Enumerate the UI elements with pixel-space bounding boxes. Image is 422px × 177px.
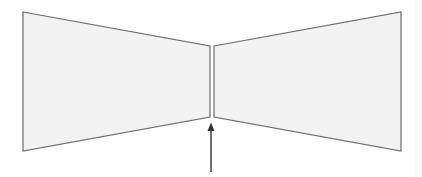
diagram-canvas [0,0,422,177]
arrow-up-icon [208,123,215,132]
right-panel [214,12,401,151]
diagram-svg [0,0,422,177]
left-panel [23,12,210,151]
scan-edge-strip [414,0,422,177]
